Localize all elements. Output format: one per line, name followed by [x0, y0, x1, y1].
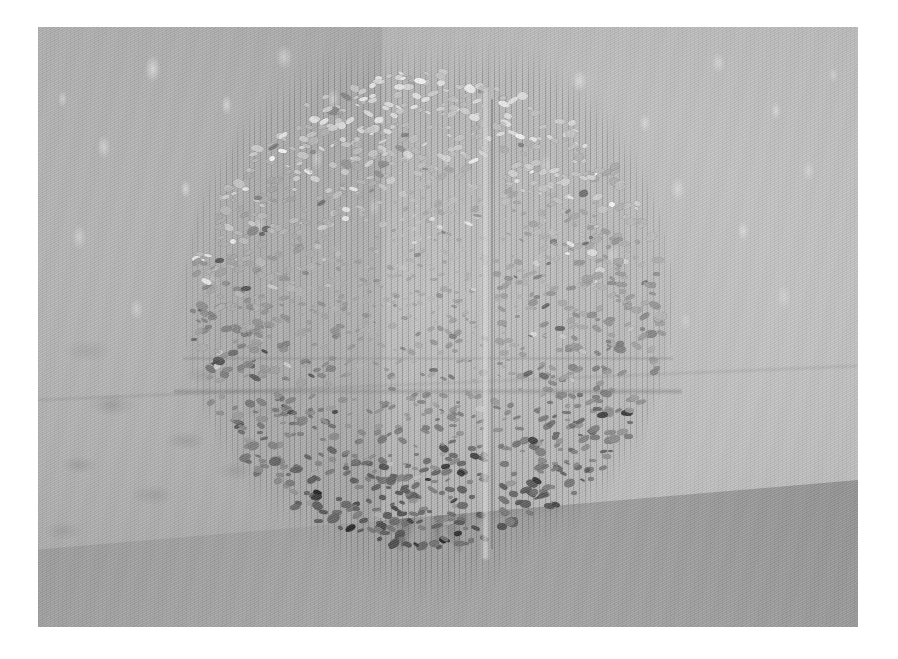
canvas: Suspended sphere of small reflective ele…: [0, 0, 898, 659]
film-grain: [38, 27, 858, 627]
photograph-plate: [38, 27, 858, 627]
